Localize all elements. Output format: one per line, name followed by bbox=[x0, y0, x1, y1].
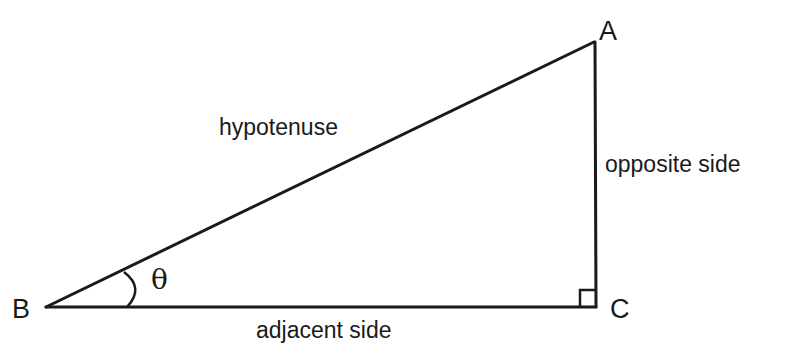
vertex-label-a: A bbox=[599, 18, 617, 45]
opposite-side-label: opposite side bbox=[605, 153, 741, 176]
angle-theta-symbol: θ bbox=[151, 266, 168, 294]
hypotenuse-label: hypotenuse bbox=[219, 116, 338, 139]
vertex-label-b: B bbox=[12, 296, 30, 323]
right-triangle-diagram bbox=[0, 0, 786, 358]
hypotenuse-line bbox=[46, 42, 594, 307]
opposite-side-line bbox=[595, 42, 596, 307]
angle-theta-arc bbox=[124, 272, 135, 307]
adjacent-side-label: adjacent side bbox=[256, 319, 392, 342]
right-angle-marker bbox=[580, 290, 596, 307]
vertex-label-c: C bbox=[610, 296, 630, 323]
